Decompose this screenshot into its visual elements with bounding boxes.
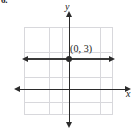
problem-number: 6. <box>1 0 7 5</box>
graph-figure: 6. (0, 3) x y <box>0 0 136 130</box>
y-axis-down-arrow-icon <box>66 122 72 128</box>
y-axis <box>69 17 70 122</box>
x-axis-left-arrow-icon <box>14 86 20 92</box>
x-axis-label: x <box>126 88 130 99</box>
grid-right-edge <box>112 27 113 115</box>
plot-line-left-arrow-icon <box>22 56 28 62</box>
plot-line-right-arrow-icon <box>109 56 115 62</box>
x-axis <box>20 89 125 90</box>
point-coordinate-label: (0, 3) <box>70 43 92 54</box>
y-axis-label: y <box>65 1 69 12</box>
